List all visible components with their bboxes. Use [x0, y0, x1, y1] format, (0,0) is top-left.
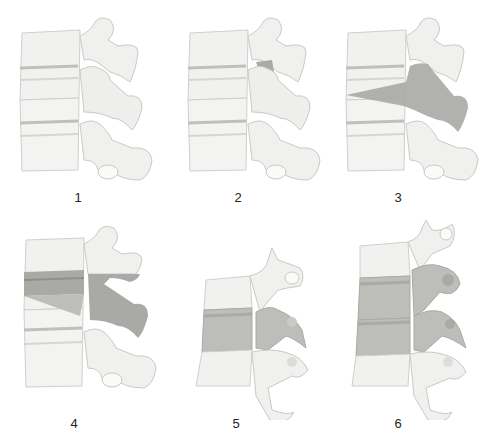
spine-segment-illustration — [0, 0, 165, 190]
panel-label: 4 — [64, 416, 84, 431]
panel-5: 5 — [160, 220, 325, 442]
spine-segment-illustration — [0, 220, 165, 420]
panel-3: 3 — [320, 0, 490, 210]
panel-4: 4 — [0, 220, 165, 442]
panel-label: 1 — [68, 190, 88, 205]
spine-segment-illustration — [160, 0, 325, 190]
spine-segment-illustration — [320, 220, 490, 420]
panel-label: 2 — [228, 190, 248, 205]
panel-label: 6 — [388, 416, 408, 431]
panel-label: 3 — [388, 190, 408, 205]
spine-segment-illustration — [160, 220, 325, 420]
panel-1: 1 — [0, 0, 165, 210]
panel-2: 2 — [160, 0, 325, 210]
panel-label: 5 — [226, 416, 246, 431]
spine-segment-illustration — [320, 0, 490, 190]
panel-6: 6 — [320, 220, 490, 442]
